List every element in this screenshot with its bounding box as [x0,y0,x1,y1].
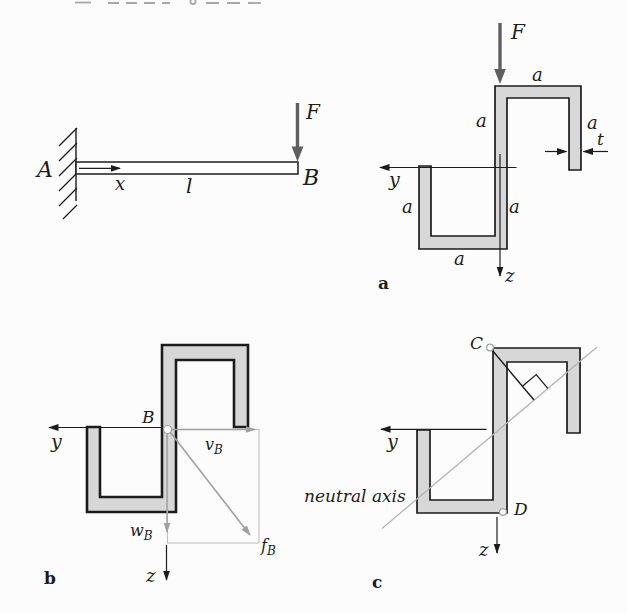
dim-top-flange-label: a [532,64,543,85]
mechanics-figure: A x l B F F a a a t y a a a z a [0,0,627,614]
dim-bottom-flange-label: a [454,248,465,269]
force-label: F [510,20,526,44]
beam-length-label: l [186,174,192,198]
y-axis-label: y [50,430,62,452]
force-label: F [305,100,321,124]
subfigure-tag-a: a [378,273,389,293]
centroid-point-label: B [141,407,155,427]
w-deflection-sub: B [143,529,153,543]
z-axis-label: z [145,565,156,586]
y-axis-label: y [388,168,400,190]
dim-upper-web-label: a [476,110,487,131]
point-d-marker [500,509,507,516]
dim-left-flange-label: a [402,196,413,217]
neutral-axis-label: neutral axis [304,486,406,506]
figure-canvas: A x l B F F a a a t y a a a z a [0,0,627,614]
w-deflection-base: w [130,521,144,540]
z-axis-label: z [504,265,515,286]
f-deflection-sub: B [266,544,276,558]
x-axis-label: x [115,173,125,194]
v-deflection-sub: B [213,443,223,457]
point-c-marker [487,344,494,351]
subfigure-tag-c: c [372,572,382,592]
centroid-marker [164,426,172,434]
dim-lower-web-label: a [509,196,520,217]
z-axis-label: z [478,539,489,560]
point-c-label: C [470,333,483,353]
subfigure-tag-b: b [44,568,56,588]
support-point-label: A [35,157,53,182]
point-d-label: D [513,499,528,519]
tip-point-label: B [302,165,319,190]
v-deflection-base: v [205,435,214,454]
dim-wall-thickness-label: t [597,129,604,149]
y-axis-label: y [386,430,398,452]
